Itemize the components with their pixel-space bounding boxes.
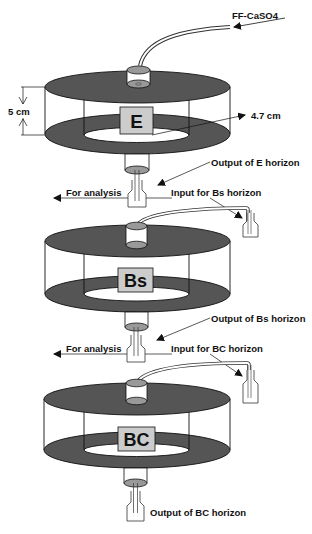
- input-feed: FF-CaSO4: [140, 10, 285, 66]
- feed-bottle: [243, 213, 258, 237]
- column-bc: BC: [44, 379, 230, 487]
- output-bs: Output of Bs horizon: [157, 313, 306, 340]
- input-label: FF-CaSO4: [232, 10, 279, 21]
- horizon-label: E: [130, 111, 143, 132]
- height-dimension: 5 cm: [8, 87, 45, 135]
- horizon-label: BC: [124, 430, 150, 450]
- collection-bottle: [127, 335, 145, 362]
- collection-bottle: [127, 491, 144, 521]
- height-label: 5 cm: [8, 106, 30, 117]
- for-analysis-label-1: For analysis: [66, 187, 121, 198]
- output-bc: Output of BC horizon: [127, 483, 246, 521]
- output-e: Output of E horizon: [158, 157, 300, 185]
- column-bs: Bs: [45, 222, 230, 331]
- horizon-label: Bs: [124, 271, 147, 291]
- feed-bottle: [243, 370, 258, 403]
- radius-label: 4.7 cm: [251, 110, 281, 121]
- input-label-bc: Input for BC horizon: [171, 343, 263, 354]
- output-label-bc: Output of BC horizon: [150, 507, 246, 518]
- output-label-e: Output of E horizon: [211, 157, 300, 168]
- collection-bottle: [128, 180, 146, 207]
- input-label-bs: Input for Bs horizon: [171, 187, 261, 198]
- for-analysis-label-2: For analysis: [66, 343, 121, 354]
- output-label-bs: Output of Bs horizon: [211, 313, 306, 324]
- leaching-column-diagram: FF-CaSO4 5 cm E 4.7 cm: [0, 0, 312, 534]
